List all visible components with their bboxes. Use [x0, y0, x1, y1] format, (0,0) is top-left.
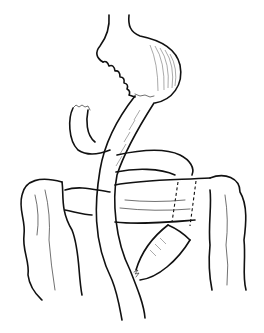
- jejunal-limb: [96, 96, 154, 320]
- descending-colon: [209, 176, 246, 290]
- transverse-colon: [65, 178, 210, 226]
- gastric-pouch: [97, 15, 181, 103]
- ascending-colon: [21, 179, 82, 300]
- jejunojejunal-anastomosis: [134, 225, 190, 280]
- anatomical-illustration: [0, 0, 264, 333]
- duodenal-stump: [70, 105, 193, 175]
- illustration-svg: [0, 0, 264, 333]
